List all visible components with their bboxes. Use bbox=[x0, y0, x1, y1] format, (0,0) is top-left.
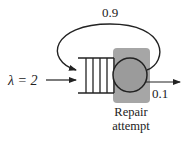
exit-probability-label: 0.1 bbox=[152, 86, 168, 101]
arrival-rate-label: λ = 2 bbox=[7, 73, 38, 88]
server-label-line2: attempt bbox=[112, 119, 150, 133]
queue-buffer bbox=[78, 58, 114, 93]
queueing-diagram: 0.9 λ = 2 0.1 Repair attempt bbox=[0, 0, 189, 142]
server-circle bbox=[113, 58, 147, 92]
server-label-line1: Repair bbox=[114, 105, 148, 119]
feedback-probability-label: 0.9 bbox=[102, 5, 118, 20]
